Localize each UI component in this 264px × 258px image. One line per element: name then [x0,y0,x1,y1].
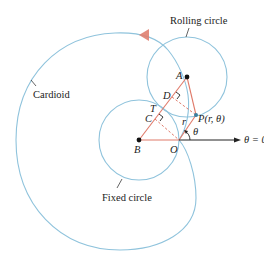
label-polar-axis: θ = 0 [244,134,264,145]
label-cardioid: Cardioid [33,89,70,100]
cardioid-diagram: Rolling circle Cardioid Fixed circle A D… [0,0,264,258]
leader-rolling-circle [186,28,189,37]
point-A [185,75,190,80]
label-D: D [162,90,171,101]
point-B [137,138,142,143]
rolling-direction-arrowhead [139,29,149,41]
label-B: B [134,144,141,155]
leader-cardioid [31,80,36,86]
right-angle-C [159,114,163,121]
label-P: P(r, θ) [197,113,225,125]
label-rolling-circle: Rolling circle [170,15,228,26]
label-theta: θ [193,126,198,137]
label-C: C [145,113,153,124]
segment-BA [139,77,187,140]
label-fixed-circle: Fixed circle [102,192,152,203]
right-angle-D [176,92,180,99]
label-A: A [175,70,183,81]
cardioid-curve [16,33,196,250]
leader-fixed-circle [117,179,122,188]
polar-axis-arrowhead [234,138,241,143]
label-O: O [170,144,178,155]
